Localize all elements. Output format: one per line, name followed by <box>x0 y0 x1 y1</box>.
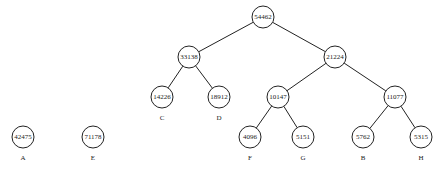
tree-node: 21224 <box>324 46 346 68</box>
node-value: 71178 <box>84 133 102 141</box>
node-value: 5762 <box>356 133 371 141</box>
huffman-tree-diagram: 54462331382122414226C18912D1014711077409… <box>0 0 447 171</box>
node-value: 11077 <box>386 93 404 101</box>
tree-node: 5315H <box>410 126 432 162</box>
tree-edge <box>256 106 271 128</box>
node-value: 10147 <box>269 93 287 101</box>
tree-node: 33138 <box>178 46 200 68</box>
tree-node: 5151G <box>292 126 314 162</box>
tree-node: 42475A <box>12 126 34 162</box>
tree-node: 10147 <box>267 86 289 108</box>
tree-node: 54462 <box>252 6 274 28</box>
node-value: 18912 <box>210 93 228 101</box>
leaf-symbol-label: D <box>216 114 221 122</box>
node-value: 4096 <box>243 133 258 141</box>
tree-node: 11077 <box>384 86 406 108</box>
tree-edge <box>273 22 326 51</box>
tree-node: 5762B <box>352 126 374 162</box>
tree-edge <box>401 106 415 128</box>
leaf-symbol-label: F <box>248 154 252 162</box>
tree-edge <box>284 106 297 127</box>
tree-edge <box>287 63 326 90</box>
node-value: 54462 <box>254 13 272 21</box>
tree-edge <box>196 66 213 88</box>
nodes-group: 54462331382122414226C18912D1014711077409… <box>12 6 432 162</box>
tree-node: 71178E <box>82 126 104 162</box>
leaf-symbol-label: G <box>300 154 305 162</box>
tree-edge <box>199 22 254 52</box>
leaf-symbol-label: E <box>91 154 95 162</box>
node-value: 5315 <box>414 133 429 141</box>
node-value: 5151 <box>296 133 311 141</box>
edges-group <box>168 22 415 128</box>
node-value: 21224 <box>326 53 344 61</box>
tree-node: 14226C <box>151 86 173 122</box>
leaf-symbol-label: C <box>160 114 165 122</box>
tree-edge <box>370 106 388 129</box>
tree-edge <box>168 66 183 88</box>
leaf-symbol-label: H <box>418 154 423 162</box>
node-value: 33138 <box>180 53 198 61</box>
tree-node: 4096F <box>239 126 261 162</box>
tree-edge <box>344 63 386 91</box>
tree-svg: 54462331382122414226C18912D1014711077409… <box>0 0 447 171</box>
leaf-symbol-label: A <box>20 154 25 162</box>
tree-node: 18912D <box>208 86 230 122</box>
node-value: 14226 <box>153 93 171 101</box>
node-value: 42475 <box>14 133 32 141</box>
leaf-symbol-label: B <box>361 154 366 162</box>
